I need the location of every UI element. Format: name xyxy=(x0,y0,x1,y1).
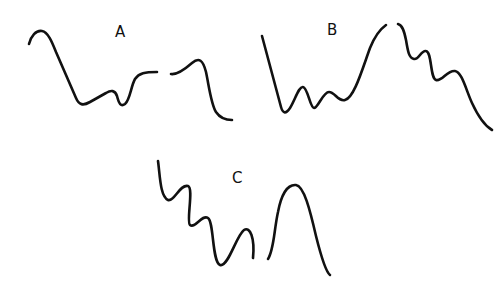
curve-a-segment-2 xyxy=(171,60,232,120)
label-c: C xyxy=(232,169,242,187)
label-a: A xyxy=(115,23,126,41)
panel-c: C xyxy=(158,161,330,275)
curve-b-segment-2 xyxy=(398,24,492,130)
curve-b-segment-1 xyxy=(262,25,386,112)
panel-b: B xyxy=(262,21,492,130)
curve-a-segment-1 xyxy=(29,31,157,105)
panel-a: A xyxy=(29,23,232,120)
label-b: B xyxy=(327,21,337,39)
wave-diagram: A B C xyxy=(0,0,503,292)
curve-c-segment-2 xyxy=(268,185,330,275)
